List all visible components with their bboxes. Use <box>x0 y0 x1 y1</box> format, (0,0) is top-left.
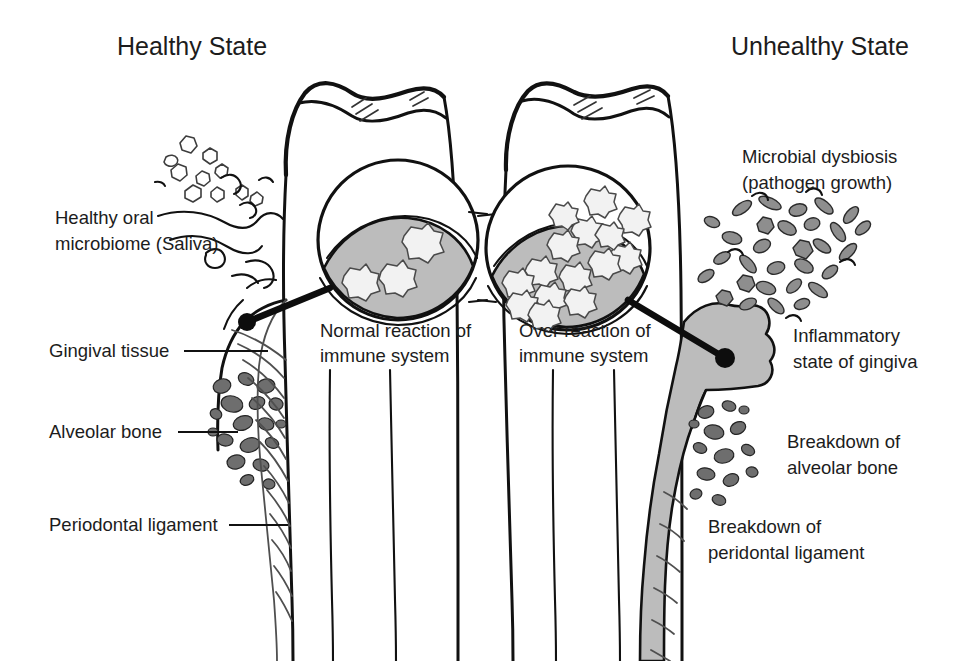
label-inflammation-line2: state of gingiva <box>793 351 918 372</box>
label-periodontal-ligament: Periodontal ligament <box>49 514 218 535</box>
callout-unhealthy-line2: immune system <box>519 345 649 366</box>
label-healthy-microbiome-line1: Healthy oral <box>55 207 154 228</box>
label-bone-breakdown-line2: alveolar bone <box>787 457 898 478</box>
label-gingival-tissue: Gingival tissue <box>49 340 169 361</box>
label-ligament-breakdown-line2: peridontal ligament <box>708 542 864 563</box>
diagram-canvas: Healthy State Unhealthy State <box>0 0 955 661</box>
title-unhealthy: Unhealthy State <box>731 32 909 60</box>
title-healthy: Healthy State <box>117 32 267 60</box>
label-ligament-breakdown-line1: Breakdown of <box>708 516 822 537</box>
label-dysbiosis-line1: Microbial dysbiosis <box>742 146 897 167</box>
label-alveolar-bone: Alveolar bone <box>49 421 162 442</box>
callout-healthy-line1: Normal reaction of <box>320 320 472 341</box>
callout-unhealthy-line1: Over reaction of <box>519 320 651 341</box>
periodontal-diagram: Healthy State Unhealthy State <box>0 0 955 661</box>
label-dysbiosis-line2: (pathogen growth) <box>742 172 892 193</box>
callout-healthy-line2: immune system <box>320 345 450 366</box>
label-bone-breakdown-line1: Breakdown of <box>787 431 901 452</box>
label-healthy-microbiome-line2: microbiome (Saliva) <box>55 233 218 254</box>
label-inflammation-line1: Inflammatory <box>793 325 901 346</box>
